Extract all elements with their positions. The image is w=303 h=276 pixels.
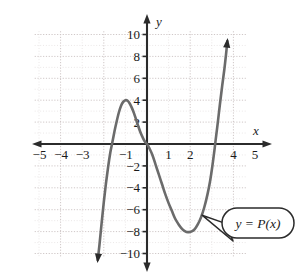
x-tick-label-5: 5	[252, 147, 259, 162]
x-axis-label: x	[252, 123, 259, 138]
x-tick-label--5: −5	[33, 147, 47, 162]
y-tick-label--10: −10	[120, 246, 140, 261]
callout-label: y = P(x)	[233, 216, 281, 231]
curve-arrow-up-right	[223, 38, 230, 48]
y-tick-label--6: −6	[126, 202, 140, 217]
x-tick-label--4: −4	[54, 147, 68, 162]
x-tick-label--3: −3	[76, 147, 90, 162]
coordinate-plane: −5−4−3−11245−10−8−6−4−2246810xyy = P(x)	[0, 0, 303, 276]
x-tick-label-1: 1	[165, 147, 172, 162]
curve-arrow-down-left	[95, 253, 102, 263]
x-tick-label-2: 2	[187, 147, 194, 162]
y-tick-label--4: −4	[126, 180, 140, 195]
y-tick-label--2: −2	[126, 159, 140, 174]
y-tick-label-4: 4	[134, 93, 141, 108]
y-tick-label-6: 6	[134, 71, 141, 86]
graph-figure: −5−4−3−11245−10−8−6−4−2246810xyy = P(x)	[0, 0, 303, 276]
y-tick-label-10: 10	[127, 27, 140, 42]
y-axis-arrow-up	[143, 14, 150, 24]
function-curve	[98, 41, 228, 260]
y-axis-arrow-down	[143, 263, 150, 273]
y-tick-label-8: 8	[134, 49, 141, 64]
y-tick-label--8: −8	[126, 224, 140, 239]
x-tick-label-4: 4	[230, 147, 237, 162]
y-axis-label: y	[154, 14, 162, 29]
x-axis-arrow-right	[263, 140, 273, 147]
